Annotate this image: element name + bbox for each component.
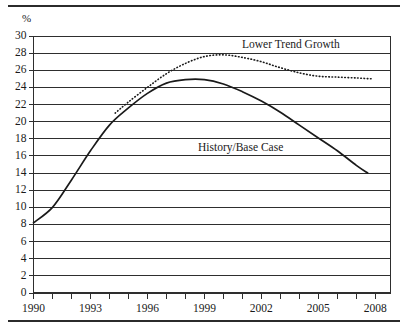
y-tick-label: 22 bbox=[1, 99, 27, 111]
x-tick-label: 1990 bbox=[12, 302, 56, 314]
y-tick-label: 10 bbox=[1, 201, 27, 213]
x-tick-label: 2005 bbox=[296, 302, 340, 314]
series-label-history-base-case: History/Base Case bbox=[196, 141, 285, 153]
y-tick-label: 28 bbox=[1, 47, 27, 59]
y-tick-label: 24 bbox=[1, 81, 27, 93]
chart-figure: % 024681012141618202224262830 1990199319… bbox=[0, 0, 408, 328]
y-tick-label: 0 bbox=[1, 287, 27, 299]
x-tick-label: 1993 bbox=[68, 302, 112, 314]
y-tick-label: 18 bbox=[1, 133, 27, 145]
series-label-lower-trend-growth: Lower Trend Growth bbox=[240, 38, 342, 50]
y-tick-label: 20 bbox=[1, 116, 27, 128]
x-tick-label: 2008 bbox=[353, 302, 397, 314]
y-tick-label: 30 bbox=[1, 30, 27, 42]
x-tick-marks-group bbox=[34, 293, 376, 299]
y-tick-label: 14 bbox=[1, 167, 27, 179]
plot-area: 024681012141618202224262830 199019931996… bbox=[0, 0, 408, 328]
plot-frame bbox=[34, 36, 391, 293]
chart-canvas bbox=[0, 0, 408, 328]
y-tick-marks-group bbox=[29, 36, 34, 293]
y-tick-label: 26 bbox=[1, 64, 27, 76]
y-tick-label: 12 bbox=[1, 184, 27, 196]
y-tick-label: 6 bbox=[1, 236, 27, 248]
x-tick-label: 2002 bbox=[239, 302, 283, 314]
y-tick-label: 8 bbox=[1, 218, 27, 230]
x-tick-label: 1999 bbox=[182, 302, 226, 314]
y-tick-label: 16 bbox=[1, 150, 27, 162]
bottom-divider-rule bbox=[8, 320, 400, 322]
y-tick-label: 2 bbox=[1, 270, 27, 282]
y-tick-label: 4 bbox=[1, 253, 27, 265]
x-tick-label: 1996 bbox=[125, 302, 169, 314]
